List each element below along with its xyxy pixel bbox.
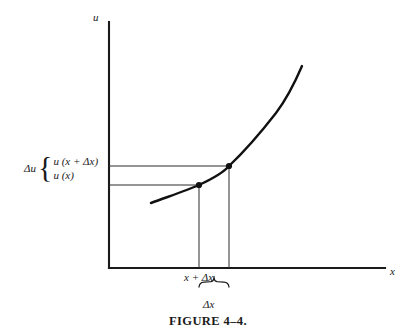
delta-x-label: Δx xyxy=(203,299,214,310)
point-u-x-marker xyxy=(196,182,202,188)
x-axis-label: x xyxy=(390,266,395,277)
x-tick-label: x + Δx xyxy=(184,272,213,283)
delta-u-symbol: Δu xyxy=(24,162,36,174)
value-label-u-x: u (x) xyxy=(53,170,98,181)
value-label-u-x-plus-dx: u (x + Δx) xyxy=(53,156,98,167)
delta-u-values: u (x + Δx) u (x) xyxy=(53,156,98,181)
figure-caption: FIGURE 4–4. xyxy=(0,314,416,329)
y-axis-label: u xyxy=(93,12,99,23)
point-u-x-plus-dx-marker xyxy=(226,163,232,169)
delta-u-annotation: Δu { u (x + Δx) u (x) xyxy=(24,151,98,185)
delta-u-brace: { xyxy=(38,155,52,178)
figure-container: u x Δu { u (x + Δx) u (x) x + Δx Δx FIGU… xyxy=(0,0,416,336)
curve-u-of-x xyxy=(151,66,302,203)
